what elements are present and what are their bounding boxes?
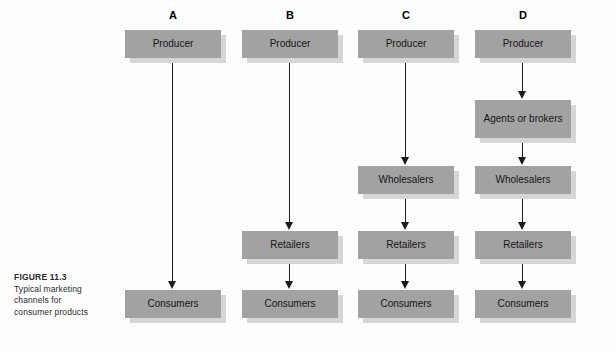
channel-node: Wholesalers — [358, 166, 454, 194]
channel-node: Producer — [125, 30, 221, 58]
flow-arrowhead — [285, 222, 293, 230]
figure-number: FIGURE 11.3 — [14, 272, 118, 284]
channel-node: Wholesalers — [475, 166, 571, 194]
channel-node-label: Retailers — [270, 239, 309, 252]
channel-node-label: Producer — [503, 38, 544, 51]
channel-node: Agents or brokers — [475, 100, 571, 138]
flow-arrowhead — [518, 91, 526, 99]
flow-arrowhead — [285, 281, 293, 289]
column-header-c: C — [346, 9, 466, 21]
channel-node: Producer — [242, 30, 338, 58]
flow-connector — [289, 259, 290, 281]
flow-connector — [172, 58, 173, 281]
channel-node-label: Consumers — [264, 298, 315, 311]
channel-node: Producer — [358, 30, 454, 58]
column-header-d: D — [463, 9, 583, 21]
channel-column-a: AProducerConsumers — [113, 0, 233, 353]
channel-node: Consumers — [242, 290, 338, 318]
channel-column-c: CProducerWholesalersRetailersConsumers — [346, 0, 466, 353]
flow-arrowhead — [401, 222, 409, 230]
channel-node: Retailers — [475, 231, 571, 259]
channel-node: Retailers — [242, 231, 338, 259]
channel-node-label: Wholesalers — [378, 174, 433, 187]
flow-connector — [405, 259, 406, 281]
flow-connector — [289, 58, 290, 222]
column-header-b: B — [230, 9, 350, 21]
flow-connector — [522, 259, 523, 281]
channel-node: Consumers — [475, 290, 571, 318]
column-header-a: A — [113, 9, 233, 21]
figure-caption: FIGURE 11.3 Typical marketing channels f… — [14, 272, 118, 318]
channel-node-label: Retailers — [503, 239, 542, 252]
flow-connector — [522, 194, 523, 222]
flow-arrowhead — [168, 281, 176, 289]
channel-node-label: Consumers — [380, 298, 431, 311]
channel-node-label: Consumers — [497, 298, 548, 311]
flow-connector — [522, 138, 523, 157]
channel-node-label: Consumers — [147, 298, 198, 311]
channel-column-d: DProducerAgents or brokersWholesalersRet… — [463, 0, 583, 353]
figure-caption-line-2: channels for — [14, 295, 118, 307]
figure-caption-line-1: Typical marketing — [14, 284, 118, 296]
flow-arrowhead — [518, 157, 526, 165]
channel-node-label: Producer — [386, 38, 427, 51]
flow-connector — [522, 58, 523, 91]
channel-node-label: Producer — [153, 38, 194, 51]
flow-connector — [405, 194, 406, 222]
channel-column-b: BProducerRetailersConsumers — [230, 0, 350, 353]
channel-node: Producer — [475, 30, 571, 58]
channel-node-label: Wholesalers — [495, 174, 550, 187]
channel-node-label: Producer — [270, 38, 311, 51]
flow-arrowhead — [401, 281, 409, 289]
channel-node-label: Retailers — [386, 239, 425, 252]
flow-arrowhead — [401, 157, 409, 165]
figure-caption-line-3: consumer products — [14, 307, 118, 319]
channel-node: Consumers — [125, 290, 221, 318]
flow-connector — [405, 58, 406, 157]
flow-arrowhead — [518, 222, 526, 230]
channel-node: Consumers — [358, 290, 454, 318]
channel-node: Retailers — [358, 231, 454, 259]
channel-node-label: Agents or brokers — [484, 113, 563, 126]
flow-arrowhead — [518, 281, 526, 289]
